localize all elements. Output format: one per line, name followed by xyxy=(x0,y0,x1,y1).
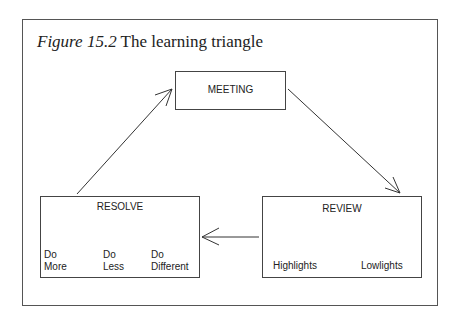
resolve-node: RESOLVE Do More Do Less Do Different xyxy=(40,196,200,278)
resolve-child-more: Do More xyxy=(44,249,67,273)
meeting-node: MEETING xyxy=(175,71,286,110)
resolve-child-different: Do Different xyxy=(151,249,189,273)
meeting-label: MEETING xyxy=(176,84,285,96)
resolve-label: RESOLVE xyxy=(41,201,199,213)
review-node: REVIEW Highlights Lowlights xyxy=(262,196,422,278)
review-child-lowlights: Lowlights xyxy=(361,260,403,272)
resolve-child-less: Do Less xyxy=(103,249,124,273)
review-child-highlights: Highlights xyxy=(273,260,317,272)
review-label: REVIEW xyxy=(263,203,421,215)
